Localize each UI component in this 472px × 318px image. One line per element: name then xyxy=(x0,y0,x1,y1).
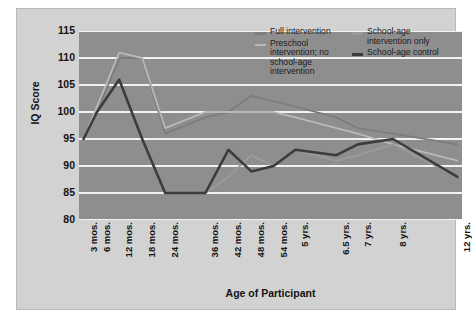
legend-item: Full intervention xyxy=(255,27,342,37)
x-tick-label: 36 mos. xyxy=(209,222,220,257)
x-tick-label: 6.5 yrs. xyxy=(340,222,351,255)
legend-swatch-icon xyxy=(255,32,266,35)
x-axis-label: Age of Participant xyxy=(79,287,462,299)
x-tick-label: 42 mos. xyxy=(232,222,243,257)
y-tick-label: 80 xyxy=(35,214,75,225)
x-tick-label: 6 mos. xyxy=(101,222,112,252)
legend-column-right: School-age intervention onlySchool-age c… xyxy=(352,27,455,78)
legend-item: School-age intervention only xyxy=(352,27,455,46)
y-tick-label: 105 xyxy=(35,79,75,90)
y-tick-label: 90 xyxy=(35,160,75,171)
x-tick-label: 24 mos. xyxy=(169,222,180,257)
legend-item: Preschool intervention; no school-age in… xyxy=(255,39,342,77)
y-tick-label: 100 xyxy=(35,106,75,117)
series-line xyxy=(84,80,458,193)
legend-label: School-age intervention only xyxy=(367,27,455,46)
series-line xyxy=(84,80,458,193)
x-tick-label: 8 yrs. xyxy=(397,222,408,247)
y-tick-label: 110 xyxy=(35,52,75,63)
chart-screenshot: 11511010510095908580 IQ Score 3 mos.6 mo… xyxy=(0,0,472,318)
chart-legend: Full interventionPreschool intervention;… xyxy=(255,27,455,78)
legend-swatch-icon xyxy=(255,44,266,47)
legend-swatch-icon xyxy=(352,53,363,56)
x-tick-label: 48 mos. xyxy=(255,222,266,257)
x-tick-label: 54 mos. xyxy=(278,222,289,257)
x-tick-label: 5 yrs. xyxy=(299,222,310,247)
figure-panel: 11511010510095908580 IQ Score 3 mos.6 mo… xyxy=(16,8,456,310)
legend-label: School-age control xyxy=(367,48,439,58)
x-tick-label: 3 mos. xyxy=(88,222,99,252)
x-tick-label: 12 mos. xyxy=(123,222,134,257)
legend-item: School-age control xyxy=(352,48,455,58)
x-tick-label: 18 mos. xyxy=(146,222,157,257)
legend-label: Preschool intervention; no school-age in… xyxy=(270,39,342,77)
legend-label: Full intervention xyxy=(270,27,331,37)
y-tick-label: 85 xyxy=(35,187,75,198)
y-tick-label: 115 xyxy=(35,25,75,36)
x-axis-ticks: 3 mos.6 mos.12 mos.18 mos.24 mos.36 mos.… xyxy=(79,222,462,284)
x-tick-label: 12 yrs. xyxy=(461,222,472,252)
legend-column-left: Full interventionPreschool intervention;… xyxy=(255,27,342,78)
x-tick-label: 7 yrs. xyxy=(362,222,373,247)
y-tick-label: 95 xyxy=(35,133,75,144)
y-axis-label: IQ Score xyxy=(29,63,41,143)
legend-swatch-icon xyxy=(352,32,363,35)
